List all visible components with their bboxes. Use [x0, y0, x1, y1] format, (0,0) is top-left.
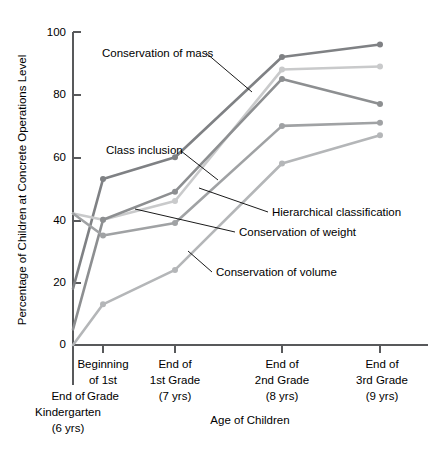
ann-conservation-of-volume: Conservation of volume: [216, 266, 337, 278]
data-point: [279, 54, 285, 60]
x-category-end-1st-grade: End of 1st Grade (7 yrs): [150, 358, 201, 402]
y-tick-label-80: 80: [53, 88, 66, 100]
x-cat-line: End of: [158, 358, 192, 370]
x-cat-line: End of: [51, 390, 85, 402]
data-point: [279, 160, 285, 166]
data-point: [377, 120, 383, 126]
y-tick-label-60: 60: [53, 151, 66, 163]
series-path: [73, 79, 380, 329]
x-cat-line: 2nd Grade: [255, 374, 309, 386]
series-path: [73, 45, 380, 289]
x-category-end-2nd-grade: End of 2nd Grade (8 yrs): [255, 358, 309, 402]
ann-class-inclusion: Class inclusion: [106, 144, 183, 156]
x-cat-line: 1st Grade: [150, 374, 201, 386]
data-point: [279, 67, 285, 73]
series-hierarchical-classification: [73, 76, 383, 329]
x-cat-line: 3rd Grade: [356, 374, 408, 386]
y-tick-label-40: 40: [53, 214, 66, 226]
x-cat-line: (7 yrs): [159, 390, 192, 402]
data-point: [377, 101, 383, 107]
data-point: [279, 76, 285, 82]
data-point: [172, 220, 178, 226]
data-point: [279, 123, 285, 129]
data-point: [100, 301, 106, 307]
data-point: [100, 232, 106, 238]
x-cat-line: (9 yrs): [366, 390, 399, 402]
ann-hierarchical-classification: Hierarchical classification: [272, 206, 401, 218]
x-axis-title: Age of Children: [210, 414, 289, 426]
data-point: [377, 132, 383, 138]
x-category-end-3rd-grade: End of 3rd Grade (9 yrs): [356, 358, 408, 402]
chart-container: Percentage of Children at Concrete Opera…: [0, 0, 443, 454]
y-tick-label-20: 20: [53, 276, 66, 288]
x-cat-line: End of: [265, 358, 299, 370]
series-conservation-of-volume: [73, 132, 383, 345]
series-layer: [73, 42, 383, 345]
x-cat-line: (6 yrs): [52, 422, 85, 434]
x-cat-line: End of: [365, 358, 399, 370]
line-chart: Percentage of Children at Concrete Opera…: [0, 0, 443, 454]
data-point: [172, 189, 178, 195]
data-point: [100, 176, 106, 182]
x-cat-line: Kindergarten: [35, 406, 101, 418]
data-point: [100, 217, 106, 223]
ann-conservation-of-weight: Conservation of weight: [239, 226, 357, 238]
x-category-beginning-1st-grade: Beginning of 1st Grade: [77, 358, 128, 402]
x-cat-line: Grade: [87, 390, 119, 402]
data-point: [377, 42, 383, 48]
x-cat-line: of 1st: [89, 374, 118, 386]
x-cat-line: (8 yrs): [266, 390, 299, 402]
data-point: [377, 63, 383, 69]
x-cat-line: Beginning: [77, 358, 128, 370]
series-conservation-of-mass: [73, 42, 383, 289]
y-axis-title: Percentage of Children at Concrete Opera…: [16, 55, 28, 325]
data-point: [172, 198, 178, 204]
y-tick-label-100: 100: [47, 26, 66, 38]
leader-conservation-of-volume: [188, 251, 212, 272]
data-point: [172, 267, 178, 273]
ann-conservation-of-mass: Conservation of mass: [102, 47, 213, 59]
leader-hierarchical-classification: [199, 188, 268, 212]
y-tick-label-0: 0: [60, 338, 66, 350]
series-path: [73, 135, 380, 345]
